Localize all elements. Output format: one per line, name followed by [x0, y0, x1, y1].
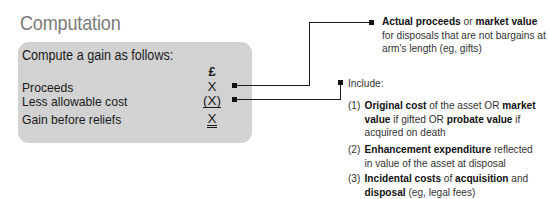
note-bold: market value	[475, 15, 537, 27]
connector-line	[309, 22, 310, 86]
row-label-allowable-cost: Less allowable cost	[22, 94, 127, 109]
row-value-allowable-cost: (X)	[202, 93, 222, 108]
note-bold: Actual proceeds	[382, 15, 461, 27]
list-number: (2)	[348, 143, 360, 157]
connector-end-marker	[338, 80, 343, 85]
include-intro: Include:	[348, 77, 383, 91]
value-text: (X)	[203, 94, 221, 108]
connector-end-marker	[369, 20, 374, 25]
row-value-gain: X	[202, 111, 222, 128]
list-number: (1)	[348, 99, 360, 113]
currency-symbol: £	[202, 64, 222, 79]
list-text: Incidental costs of acquisition and disp…	[365, 172, 540, 199]
list-number: (3)	[348, 172, 360, 186]
connector-line	[235, 99, 341, 100]
note-text: or	[461, 15, 476, 27]
connector-line	[235, 85, 310, 86]
box-heading: Compute a gain as follows:	[22, 47, 173, 63]
value-text: X	[207, 112, 216, 128]
list-text: Enhancement expenditure reflected in val…	[365, 143, 540, 170]
proceeds-note: Actual proceeds or market value for disp…	[382, 15, 548, 56]
row-value-proceeds: X	[202, 79, 222, 94]
row-label-gain: Gain before reliefs	[22, 112, 121, 127]
list-text: Original cost of the asset OR market val…	[365, 99, 540, 140]
section-title: Computation	[20, 11, 121, 35]
row-label-proceeds: Proceeds	[22, 80, 73, 95]
connector-line	[309, 22, 371, 23]
note-text: for disposals that are not bargains at a…	[382, 29, 546, 55]
